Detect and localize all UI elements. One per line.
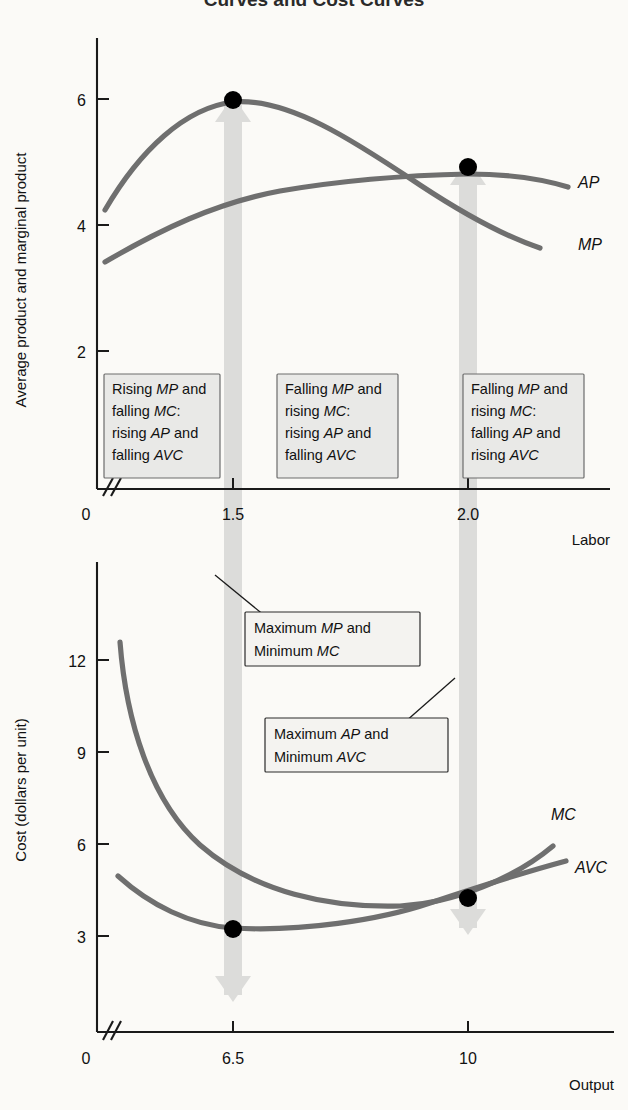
y-axis-label-bottom: Cost (dollars per unit) [12,718,29,861]
y-tick-label-2-top: 2 [77,344,86,361]
annotation-right-line-3: falling AP and [471,425,561,441]
marker-max-mp [224,91,242,109]
x-tick-label-10: 10 [459,1050,477,1067]
x-tick-label-2-0: 2.0 [457,506,479,523]
y-tick-label-12: 12 [68,653,86,670]
annotation-box-middle: Falling MP and rising MC: rising AP and … [277,374,398,478]
annotation-middle-line-1: Falling MP and [285,381,382,397]
annotation-max-mp-line-2: Minimum MC [254,643,340,659]
figure-title: Curves and Cost Curves [204,0,425,10]
x-axis-label-bottom: Output [569,1076,615,1093]
annotation-middle-line-4: falling AVC [285,447,356,463]
figure-background [0,0,628,1110]
annotation-right-line-1: Falling MP and [471,381,568,397]
x-tick-label-1-5: 1.5 [222,506,244,523]
y-tick-label-4-top: 4 [77,218,86,235]
x-tick-label-6-5: 6.5 [222,1050,244,1067]
y-tick-label-9: 9 [77,745,86,762]
annotation-left-line-3: rising AP and [112,425,198,441]
annotation-box-right: Falling MP and rising MC: falling AP and… [463,374,584,478]
y-axis-label-top: Average product and marginal product [12,152,29,408]
x-axis-label-top: Labor [572,531,610,548]
annotation-left-line-1: Rising MP and [112,381,206,397]
marker-min-mc [224,920,242,938]
y-tick-label-3: 3 [77,929,86,946]
curve-label-avc: AVC [574,859,607,876]
marker-ap-equals-mp [459,158,477,176]
annotation-max-ap-line-1: Maximum AP and [274,726,388,742]
curve-label-mc: MC [551,806,576,823]
annotation-middle-line-3: rising AP and [285,425,371,441]
figure-container: Curves and Cost Curves Average product a… [0,0,628,1110]
annotation-box-left: Rising MP and falling MC: rising AP and … [104,374,220,478]
curve-label-ap: AP [577,174,600,191]
origin-label-bottom: 0 [82,1050,91,1067]
annotation-max-ap-line-2: Minimum AVC [274,749,366,765]
annotation-left-line-2: falling MC: [112,403,181,419]
origin-label-top: 0 [82,506,91,523]
annotation-box-max-mp: Maximum MP and Minimum MC [245,612,420,666]
y-tick-label-6-top: 6 [77,92,86,109]
annotation-right-line-4: rising AVC [471,447,539,463]
annotation-middle-line-2: rising MC: [285,403,350,419]
annotation-box-max-ap: Maximum AP and Minimum AVC [265,718,448,772]
y-tick-label-6: 6 [77,837,86,854]
annotation-left-line-4: falling AVC [112,447,183,463]
annotation-right-line-2: rising MC: [471,403,536,419]
curve-label-mp: MP [578,236,602,253]
marker-avc-equals-mc [459,889,477,907]
annotation-max-mp-line-1: Maximum MP and [254,620,371,636]
